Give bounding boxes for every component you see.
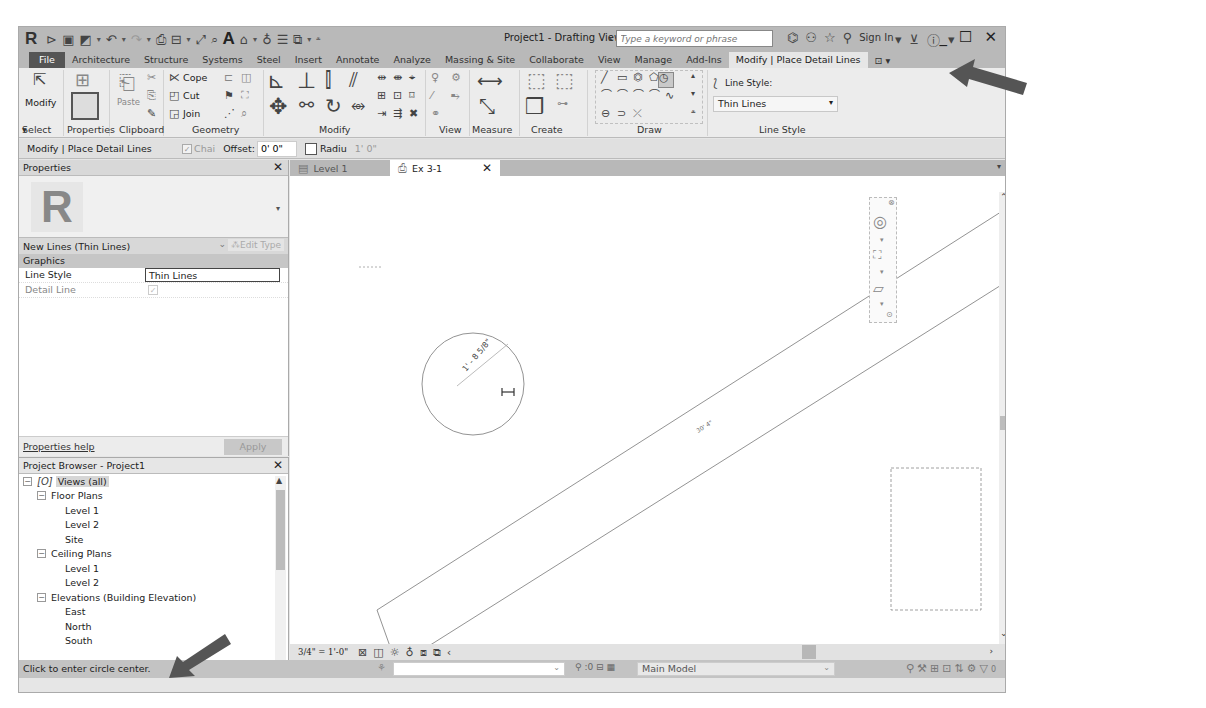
view-tab-ex-3-1[interactable]: ⎙ Ex 3-1 ✕ — [390, 160, 500, 176]
tab-architecture[interactable]: Architecture — [65, 52, 137, 68]
split-icon[interactable]: ⇹ — [377, 72, 386, 83]
split-face-icon[interactable]: ◫ — [241, 72, 251, 83]
tab-structure[interactable]: Structure — [137, 52, 195, 68]
close-tab-icon[interactable]: ✕ — [482, 161, 492, 175]
instance-filter-label[interactable]: New Lines (Thin Lines) — [23, 241, 130, 252]
trim-extend-icon[interactable]: ⥈ — [351, 96, 365, 114]
type-properties-icon[interactable]: ⊞ — [75, 71, 90, 89]
tab-analyze[interactable]: Analyze — [386, 52, 437, 68]
view-tab-level-1[interactable]: ▤ Level 1 — [290, 160, 390, 176]
tangent-arc-icon[interactable]: ⌒ — [633, 90, 644, 101]
chevron-down-icon[interactable]: ▾ — [276, 204, 280, 213]
workset-dropdown[interactable]: ⌄ — [393, 662, 565, 676]
scroll-left-icon[interactable]: ‹ — [447, 646, 451, 659]
tab-add-ins[interactable]: Add-Ins — [679, 52, 729, 68]
undo-icon[interactable]: ↶ — [106, 33, 117, 46]
expand-search-icon[interactable]: ▸ — [609, 35, 613, 43]
tree-item[interactable]: Level 2 — [19, 576, 288, 591]
move-icon[interactable]: ✥ — [269, 96, 287, 118]
start-end-arc-icon[interactable]: ⌒ — [601, 90, 612, 101]
tab-insert[interactable]: Insert — [288, 52, 329, 68]
offset-input[interactable] — [257, 141, 297, 157]
unpin-icon[interactable]: ⌑ — [409, 90, 415, 101]
dropdown-icon[interactable]: ▾ — [122, 35, 126, 44]
customize-qat-icon[interactable]: ⩡ — [316, 34, 321, 44]
delete-icon[interactable]: ✖ — [409, 108, 418, 119]
cut-button[interactable]: Cut — [183, 91, 199, 101]
cut-clipboard-icon[interactable]: ✂ — [147, 72, 156, 83]
create-similar-icon[interactable]: ⊶ — [557, 98, 568, 109]
view-scale[interactable]: 3/4" = 1'-0" — [298, 647, 348, 657]
dropdown-icon[interactable]: ▾ — [253, 35, 257, 44]
crop-view-icon[interactable]: ⧈ — [420, 646, 427, 659]
dropdown-icon[interactable]: ▾ — [187, 35, 191, 44]
show-crop-region-icon[interactable]: ⧉ — [433, 646, 441, 659]
dropdown-icon[interactable]: ▾ — [895, 32, 902, 47]
chevron-down-icon[interactable]: ▾ — [880, 300, 884, 308]
properties-help-link[interactable]: Properties help — [23, 441, 95, 452]
line-tool-icon[interactable]: ╱ — [601, 72, 608, 83]
print-icon[interactable]: ⎙ — [156, 33, 166, 46]
tree-item[interactable]: South — [19, 634, 288, 649]
match-properties-icon[interactable]: ✎ — [147, 108, 156, 119]
copy-modify-icon[interactable]: ⚯ — [299, 96, 314, 114]
properties-icon[interactable] — [71, 92, 99, 120]
mirror-draw-icon[interactable]: ⫽ — [349, 70, 358, 90]
create-parts-icon[interactable]: ⬚ — [555, 70, 574, 90]
text-icon[interactable]: A — [223, 29, 235, 49]
collapse-icon[interactable]: − — [37, 549, 46, 558]
tabs-dropdown-icon[interactable]: ▾ — [997, 162, 1001, 171]
paste-icon[interactable]: ⎗ — [119, 72, 135, 92]
sync-icon[interactable]: ◩ — [79, 33, 91, 46]
type-selector[interactable]: R ▾ — [19, 176, 288, 238]
close-properties-icon[interactable]: ✕ — [273, 160, 283, 174]
cut-geometry-icon[interactable]: ◰ — [169, 90, 179, 101]
selection-filter-icons[interactable]: ⚲⚒⊞⊡⇅⚙▽0 — [906, 662, 999, 675]
pick-lines-icon[interactable]: ⤫ — [633, 108, 642, 119]
tab-manage[interactable]: Manage — [627, 52, 679, 68]
cart-icon[interactable]: ⊻ — [910, 32, 920, 47]
browser-scrollbar[interactable]: ▲ ▼ — [275, 476, 286, 676]
tab-massing-site[interactable]: Massing & Site — [438, 52, 522, 68]
visual-style-icon[interactable]: ◫ — [373, 646, 383, 659]
ribbon-minimize-toggle[interactable]: ⊡ ▾ — [868, 53, 898, 68]
editing-requests[interactable]: ⚲ :0 ⊟ ▦ — [575, 662, 615, 672]
ellipse-icon[interactable]: ⊖ — [601, 108, 610, 119]
measure-between-icon[interactable]: ⟷ — [477, 72, 503, 90]
tab-annotate[interactable]: Annotate — [329, 52, 386, 68]
drawing-canvas[interactable]: 1' - 8 5/8" 30' 4" — [290, 176, 1006, 644]
design-options-dropdown[interactable]: Main Model ⌄ — [637, 662, 835, 676]
search-input[interactable] — [616, 30, 773, 47]
2d-viewcube-icon[interactable]: ▱ — [873, 280, 884, 296]
chevron-down-icon[interactable]: ⌄ — [218, 239, 226, 249]
copy-icon[interactable]: ⎘ — [147, 90, 156, 101]
override-graphics-icon[interactable]: ⚙ — [451, 72, 461, 83]
trim-single-icon[interactable]: ⇥ — [377, 108, 386, 119]
array-icon[interactable]: ⊞ — [377, 90, 386, 101]
scroll-thumb[interactable] — [1000, 416, 1006, 430]
linework-icon[interactable]: ⋰ — [224, 108, 235, 119]
partial-ellipse-icon[interactable]: ⊃ — [617, 108, 626, 119]
line-style-field[interactable]: Thin Lines — [145, 268, 280, 282]
open-icon[interactable]: ⊳ — [46, 33, 57, 46]
maximize-icon[interactable]: ☐ — [959, 28, 972, 46]
minimize-icon[interactable]: _ — [939, 28, 947, 46]
redo-icon[interactable]: ↷ — [131, 33, 142, 46]
section-icon[interactable]: ♁ — [262, 33, 272, 46]
split-gap-icon[interactable]: ⇼ — [393, 72, 402, 83]
revit-logo-icon[interactable]: R — [25, 29, 37, 49]
scroll-thumb[interactable] — [276, 490, 285, 570]
binoculars-icon[interactable]: ⌬ — [787, 30, 798, 45]
scroll-down-icon[interactable]: ⌄ — [1000, 628, 1006, 638]
favorites-star-icon[interactable]: ☆ — [824, 30, 836, 45]
paste-button[interactable]: Paste — [117, 98, 140, 107]
tree-item[interactable]: − Ceiling Plans — [19, 547, 288, 562]
join-button[interactable]: Join — [183, 109, 200, 119]
panel-select[interactable]: Select ▾ — [22, 124, 27, 135]
tab-modify-place-detail-lines[interactable]: Modify | Place Detail Lines — [729, 52, 868, 68]
mirror-axis-icon[interactable]: ⫿ — [325, 70, 331, 90]
thin-lines-icon[interactable]: ☰ — [277, 33, 289, 46]
chain-checkbox[interactable]: ✓ — [182, 144, 192, 154]
settings-icon[interactable]: ⊙ — [886, 310, 893, 319]
tree-item[interactable]: Level 1 — [19, 561, 288, 576]
